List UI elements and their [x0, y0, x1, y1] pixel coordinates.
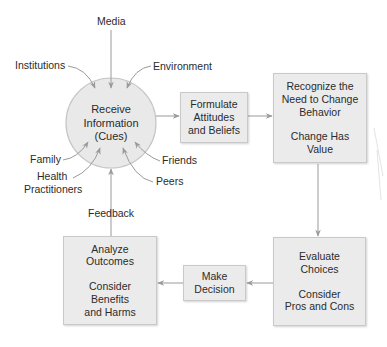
- formulate-attitudes-box: Formulate Attitudes and Beliefs: [180, 92, 248, 143]
- make-decision-box: Make Decision: [183, 265, 246, 301]
- decide-line-2: Decision: [194, 283, 234, 296]
- evaluate-line-1: Evaluate: [299, 250, 340, 263]
- analyze-sub-1: Consider: [89, 280, 131, 293]
- label-institutions: Institutions: [15, 59, 65, 72]
- analyze-line-2: Outcomes: [86, 255, 134, 268]
- recognize-line-3: Behavior: [299, 106, 340, 119]
- receive-line-1: Receive: [71, 103, 151, 117]
- formulate-line-2: Attitudes: [194, 111, 235, 124]
- label-feedback: Feedback: [88, 207, 134, 220]
- formulate-line-1: Formulate: [190, 98, 237, 111]
- receive-line-3: (Cues): [71, 130, 151, 144]
- evaluate-sub-1: Consider: [298, 288, 340, 301]
- analyze-sub-3: and Harms: [84, 306, 135, 319]
- label-media: Media: [97, 15, 126, 28]
- recognize-line-2: Need to Change: [282, 93, 358, 106]
- evaluate-sub-2: Pros and Cons: [285, 300, 354, 313]
- decide-line-1: Make: [202, 270, 228, 283]
- label-health: Health: [37, 170, 67, 183]
- evaluate-choices-box: Evaluate Choices Consider Pros and Cons: [273, 237, 366, 326]
- formulate-line-3: and Beliefs: [188, 124, 240, 137]
- receive-line-2: Information: [71, 117, 151, 131]
- recognize-line-1: Recognize the: [286, 80, 353, 93]
- label-friends: Friends: [162, 154, 197, 167]
- label-family: Family: [30, 153, 61, 166]
- receive-information-text: Receive Information (Cues): [71, 103, 151, 144]
- analyze-sub-2: Benefits: [91, 293, 129, 306]
- label-peers: Peers: [156, 175, 183, 188]
- analyze-outcomes-box: Analyze Outcomes Consider Benefits and H…: [63, 236, 157, 325]
- evaluate-line-2: Choices: [301, 263, 339, 276]
- recognize-sub-1: Change Has: [291, 130, 349, 143]
- label-environment: Environment: [153, 60, 212, 73]
- recognize-need-box: Recognize the Need to Change Behavior Ch…: [273, 73, 367, 163]
- label-practitioners: Practitioners: [24, 183, 82, 196]
- page-curl-mark: [374, 128, 383, 200]
- analyze-line-1: Analyze: [91, 243, 128, 256]
- recognize-sub-2: Value: [307, 143, 333, 156]
